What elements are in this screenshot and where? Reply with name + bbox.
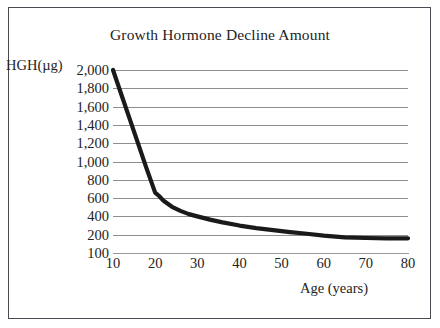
data-series-line bbox=[113, 70, 408, 253]
y-tick-label: 1,000 bbox=[76, 155, 109, 170]
x-axis-line bbox=[113, 253, 409, 254]
y-tick-label: 800 bbox=[87, 173, 109, 188]
y-tick-label: 1,800 bbox=[76, 81, 109, 96]
y-axis-tick-labels: 2,0001,8001,6001,4001,2001,0008006004002… bbox=[0, 0, 109, 328]
x-tick-label: 50 bbox=[267, 256, 297, 271]
y-tick-label: 1,400 bbox=[76, 118, 109, 133]
x-tick-label: 10 bbox=[98, 256, 128, 271]
plot-area bbox=[113, 70, 408, 253]
y-tick-label: 2,000 bbox=[76, 63, 109, 78]
chart-figure: Growth Hormone Decline Amount HGH(µg) 2,… bbox=[0, 0, 440, 328]
x-tick-label: 30 bbox=[182, 256, 212, 271]
hgh-decline-curve bbox=[113, 70, 408, 238]
x-axis-title: Age (years) bbox=[300, 280, 368, 297]
x-tick-label: 20 bbox=[140, 256, 170, 271]
y-tick-label: 600 bbox=[87, 191, 109, 206]
y-tick-label: 400 bbox=[87, 209, 109, 224]
x-tick-label: 40 bbox=[224, 256, 254, 271]
y-tick-label: 1,600 bbox=[76, 100, 109, 115]
x-tick-label: 80 bbox=[393, 256, 423, 271]
y-tick-label: 200 bbox=[87, 228, 109, 243]
x-tick-label: 70 bbox=[351, 256, 381, 271]
y-tick-label: 1,200 bbox=[76, 136, 109, 151]
x-tick-label: 60 bbox=[309, 256, 339, 271]
